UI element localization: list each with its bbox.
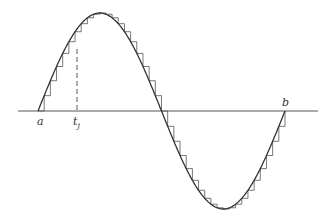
label-b: b bbox=[282, 97, 289, 108]
label-tj: tj bbox=[73, 116, 80, 130]
sine-step-diagram bbox=[0, 0, 335, 222]
label-a: a bbox=[37, 116, 44, 127]
